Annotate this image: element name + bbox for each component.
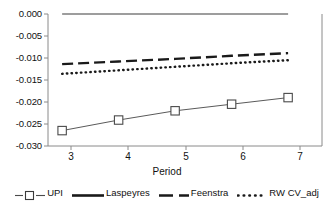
legend-swatch-feenstra-icon bbox=[159, 187, 189, 198]
legend-item-feenstra: Feenstra bbox=[159, 187, 229, 198]
data-point-marker bbox=[227, 100, 235, 108]
legend-label-feenstra: Feenstra bbox=[191, 187, 229, 198]
chart-container: 0.000 -0.005 -0.010 -0.015 -0.020 -0.025… bbox=[0, 0, 334, 205]
series-markers-upi bbox=[58, 93, 292, 134]
legend-label-rw-cv-adj: RW CV_adj bbox=[269, 187, 318, 198]
legend-swatch-upi-icon bbox=[15, 187, 45, 198]
legend-label-upi: UPI bbox=[47, 187, 63, 198]
chart-legend: UPI Laspeyres Feenstra bbox=[0, 183, 334, 201]
legend-swatch-laspeyres-icon bbox=[72, 187, 104, 198]
legend-label-laspeyres: Laspeyres bbox=[106, 187, 150, 198]
data-point-marker bbox=[284, 93, 292, 101]
data-point-marker bbox=[58, 126, 66, 134]
x-tick-label: 3 bbox=[61, 151, 81, 162]
data-point-marker bbox=[171, 107, 179, 115]
x-tick-label: 7 bbox=[290, 151, 310, 162]
legend-swatch-rw-cv-adj-icon bbox=[237, 187, 267, 198]
x-axis-title: Period bbox=[0, 166, 334, 177]
x-tick-label: 4 bbox=[118, 151, 138, 162]
x-tick-label: 5 bbox=[176, 151, 196, 162]
legend-item-upi: UPI bbox=[15, 187, 63, 198]
legend-item-rw-cv-adj: RW CV_adj bbox=[237, 187, 318, 198]
data-point-marker bbox=[114, 116, 122, 124]
legend-item-laspeyres: Laspeyres bbox=[72, 187, 150, 198]
x-tick-label: 6 bbox=[233, 151, 253, 162]
